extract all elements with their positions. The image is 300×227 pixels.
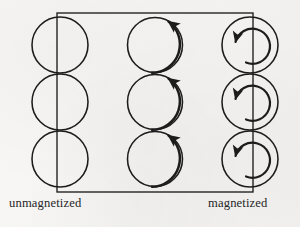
loop-plain-3 [32, 131, 88, 187]
unmagnetized-column [32, 17, 88, 187]
loop-aligned-2 [222, 74, 278, 130]
loop-plain-1 [32, 17, 88, 73]
current-arrow-2 [152, 79, 180, 130]
middle-column [128, 18, 183, 187]
magnet-bar-outline [57, 13, 253, 192]
current-arrow-1 [152, 22, 180, 73]
current-arrow-3 [152, 136, 180, 187]
magnetization-figure: unmagnetized magnetized [0, 0, 300, 227]
loop-aligned-3 [222, 131, 278, 187]
loop-aligned-1 [222, 17, 278, 73]
magnetized-column [222, 17, 278, 187]
magnet-bar-rect [57, 13, 253, 192]
label-unmagnetized: unmagnetized [9, 197, 81, 210]
loop-spiral-1 [128, 18, 183, 73]
loop-spiral-3 [128, 132, 183, 187]
loop-plain-2 [32, 74, 88, 130]
label-magnetized: magnetized [208, 197, 268, 210]
loop-spiral-2 [128, 75, 183, 130]
diagram-canvas [0, 0, 300, 227]
